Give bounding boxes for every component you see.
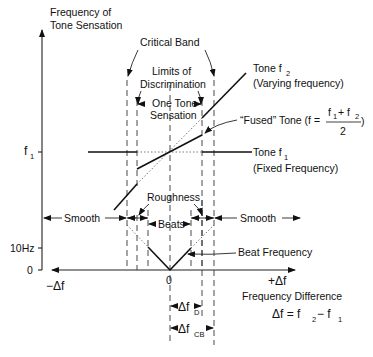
delta-f-formula: Δf = f 2 − f 1 [272,307,342,324]
delta-f-cb-dimension: Δf CB [171,322,213,339]
svg-text:2: 2 [340,125,346,137]
pos-delta-f-label: +Δf [268,274,287,288]
svg-text:“Fused” Tone (f =: “Fused” Tone (f = [240,114,320,126]
svg-text:f: f [328,106,331,118]
svg-text:Smooth: Smooth [64,212,100,224]
svg-text:2: 2 [355,112,359,121]
svg-text:+ f: + f [338,106,350,118]
ten-hz-tick-label: 10Hz [10,242,35,254]
one-tone-sensation-line1: One Tone [152,97,198,109]
fused-tone-label: “Fused” Tone (f = f 1 + f 2 2 ) [205,106,365,137]
beat-frequency-curve [127,225,214,270]
y-axis-title-line1: Frequency of [50,6,111,18]
f1-tick-sub: 1 [30,152,34,161]
y-axis [38,30,42,270]
y-axis-title-line2: Tone Sensation [50,19,123,31]
svg-text:− f: − f [317,307,331,321]
svg-text:Δf: Δf [178,322,190,336]
tone-f2-label: Tone f 2 (Varying frequency) [253,62,344,89]
svg-text:Smooth: Smooth [240,212,276,224]
delta-f-d-dimension: Δf D [171,300,201,317]
svg-text:1: 1 [333,112,337,121]
svg-text:1: 1 [338,315,342,324]
smooth-left-region: Smooth [44,212,126,224]
neg-delta-f-label: −Δf [46,279,65,293]
svg-text:2: 2 [312,315,316,324]
smooth-right-region: Smooth [215,212,300,224]
svg-text:Beats: Beats [158,218,185,230]
tone-f1-label: Tone f 1 (Fixed Frequency) [253,146,338,174]
fused-tone-line [137,135,202,169]
x-axis-title: Frequency Difference [242,290,342,302]
svg-text:Tone f: Tone f [253,146,282,158]
svg-text:Δf = f: Δf = f [272,307,301,321]
zero-y-tick-label: 0 [27,264,33,276]
f1-tick-label: f [24,144,28,158]
svg-text:Δf: Δf [178,300,190,314]
beat-frequency-label: Beat Frequency [238,246,313,258]
beats-region: Beats [149,218,190,230]
limits-discrimination-line1: Limits of [152,65,191,77]
tone-f2-line [114,73,246,210]
limits-discrimination-line2: Discrimination [140,78,206,90]
svg-text:1: 1 [284,153,288,162]
critical-band-label: Critical Band [140,36,200,48]
svg-text:(Varying frequency): (Varying frequency) [253,77,344,89]
svg-text:(Fixed Frequency): (Fixed Frequency) [253,162,338,174]
zero-x-tick-label: 0 [166,274,172,286]
svg-text:Tone f: Tone f [253,62,282,74]
one-tone-sensation-line2: Sensation [150,109,197,121]
svg-text:): ) [361,115,365,127]
svg-text:D: D [194,308,200,317]
critical-band-diagram: Frequency of Tone Sensation f 1 10Hz 0 −… [0,0,373,357]
svg-text:CB: CB [194,330,204,339]
roughness-label: Roughness [147,191,200,203]
